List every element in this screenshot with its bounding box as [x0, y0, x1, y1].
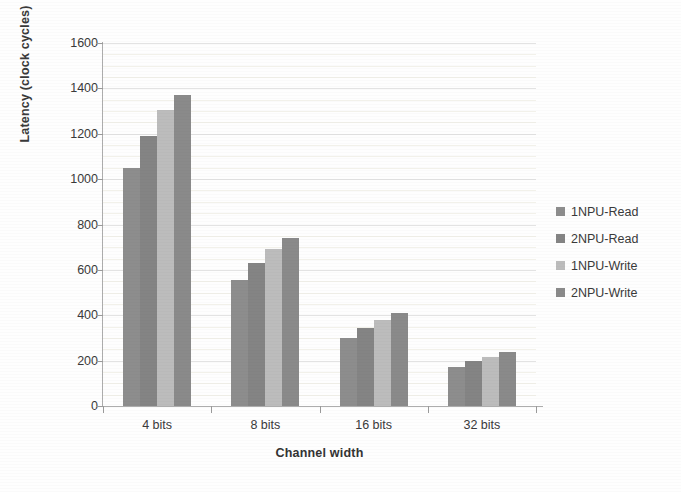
y-axis-tick-label: 400: [50, 309, 98, 321]
bar: [499, 352, 516, 406]
bar: [482, 357, 499, 406]
legend-item[interactable]: 1NPU-Write: [556, 252, 676, 279]
y-axis-tick-mark: [96, 315, 103, 316]
legend-item-label: 1NPU-Write: [571, 259, 637, 273]
y-axis-tick-label: 200: [50, 355, 98, 367]
x-axis-tick-mark: [103, 406, 104, 413]
bar: [391, 313, 408, 406]
y-axis-title: Latency (clock cycles): [18, 0, 40, 174]
bar: [140, 136, 157, 406]
bar: [465, 361, 482, 406]
x-axis-tick-mark: [428, 406, 429, 413]
legend-item[interactable]: 2NPU-Read: [556, 225, 676, 252]
chart-legend: 1NPU-Read2NPU-Read1NPU-Write2NPU-Write: [556, 198, 676, 306]
legend-item-label: 2NPU-Write: [571, 286, 637, 300]
legend-swatch-icon: [556, 207, 565, 216]
x-axis-tick-label: 16 bits: [319, 418, 429, 432]
bar: [374, 320, 391, 406]
legend-swatch-icon: [556, 261, 565, 270]
y-axis-tick-mark: [96, 134, 103, 135]
y-axis-tick-mark: [96, 88, 103, 89]
bar: [174, 95, 191, 406]
x-axis-tick-mark: [320, 406, 321, 413]
y-axis-tick-label: 1400: [50, 82, 98, 94]
y-axis-tick-mark: [96, 179, 103, 180]
gridline-minor: [103, 54, 536, 55]
y-axis-tick-label: 600: [50, 264, 98, 276]
legend-swatch-icon: [556, 288, 565, 297]
x-axis-title: Channel width: [103, 446, 536, 460]
legend-swatch-icon: [556, 234, 565, 243]
y-axis-tick-mark: [96, 361, 103, 362]
legend-item-label: 1NPU-Read: [571, 205, 638, 219]
gridline-minor: [103, 100, 536, 101]
gridline-major: [103, 43, 536, 44]
legend-item[interactable]: 2NPU-Write: [556, 279, 676, 306]
bar: [357, 328, 374, 406]
bar: [282, 238, 299, 406]
y-axis-tick-label: 1000: [50, 173, 98, 185]
y-axis-tick-label: 0: [50, 400, 98, 412]
bar: [231, 280, 248, 406]
x-axis-tick-label: 8 bits: [210, 418, 320, 432]
gridline-major: [103, 88, 536, 89]
y-axis-tick-labels: 02004006008001000120014001600: [50, 0, 98, 492]
y-axis-tick-label: 800: [50, 219, 98, 231]
x-axis-tick-label: 32 bits: [427, 418, 537, 432]
bar: [340, 338, 357, 406]
gridline-minor: [103, 77, 536, 78]
y-axis-tick-mark: [96, 225, 103, 226]
bar: [123, 168, 140, 406]
y-axis-tick-mark: [96, 406, 103, 407]
bar: [265, 249, 282, 406]
legend-item[interactable]: 1NPU-Read: [556, 198, 676, 225]
bar-chart-figure: Latency (clock cycles) 02004006008001000…: [0, 0, 681, 492]
bar: [448, 367, 465, 406]
gridline-minor: [103, 66, 536, 67]
bar: [248, 263, 265, 406]
bar: [157, 110, 174, 406]
x-axis-tick-mark: [536, 406, 537, 413]
y-axis-tick-label: 1200: [50, 128, 98, 140]
y-axis-tick-label: 1600: [50, 37, 98, 49]
legend-item-label: 2NPU-Read: [571, 232, 638, 246]
x-axis-tick-mark: [211, 406, 212, 413]
y-axis-tick-mark: [96, 270, 103, 271]
y-axis-tick-mark: [96, 43, 103, 44]
x-axis-tick-label: 4 bits: [102, 418, 212, 432]
plot-area: [103, 43, 536, 406]
